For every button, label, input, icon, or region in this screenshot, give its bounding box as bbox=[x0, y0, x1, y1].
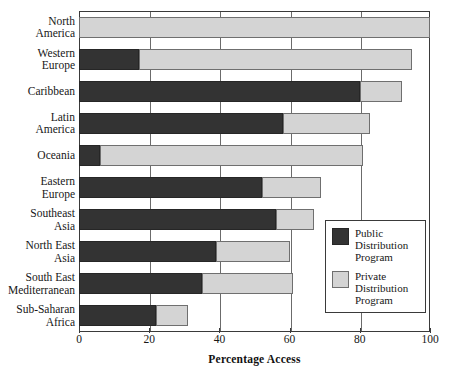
legend-label-line: Program bbox=[355, 294, 408, 306]
x-tick-label-0: 0 bbox=[76, 333, 82, 345]
bar-segment[interactable] bbox=[79, 145, 100, 166]
category-label-line: Europe bbox=[0, 188, 75, 201]
legend-entry[interactable]: PrivateDistributionProgram bbox=[332, 270, 420, 307]
bar-segment[interactable] bbox=[79, 81, 360, 102]
category-label: North EastAsia bbox=[0, 239, 75, 264]
category-label-line: America bbox=[0, 27, 75, 40]
bar-row[interactable] bbox=[79, 113, 430, 134]
x-axis-title: Percentage Access bbox=[79, 353, 430, 365]
category-axis-labels: NorthAmericaWesternEuropeCaribbeanLatinA… bbox=[0, 11, 75, 332]
legend-label-line: Private bbox=[355, 270, 408, 282]
bar-row[interactable] bbox=[79, 49, 430, 70]
bar-segment[interactable] bbox=[216, 241, 290, 262]
stacked-bar-chart: NorthAmericaWesternEuropeCaribbeanLatinA… bbox=[0, 0, 451, 376]
bar-segment[interactable] bbox=[276, 209, 315, 230]
x-tick-label-80: 80 bbox=[354, 333, 366, 345]
legend-entry[interactable]: PublicDistributionProgram bbox=[332, 227, 420, 264]
category-label: Sub-SaharanAfrica bbox=[0, 303, 75, 328]
category-label-line: Eastern bbox=[0, 175, 75, 188]
category-label: NorthAmerica bbox=[0, 15, 75, 40]
category-label: SoutheastAsia bbox=[0, 207, 75, 232]
category-label-line: Mediterranean bbox=[0, 284, 75, 297]
category-label: Oceania bbox=[0, 149, 75, 162]
x-tick-mark-100 bbox=[430, 328, 431, 333]
category-label: WesternEurope bbox=[0, 47, 75, 72]
bar-segment[interactable] bbox=[283, 113, 371, 134]
x-tick-label-100: 100 bbox=[421, 333, 438, 345]
bar-segment[interactable] bbox=[79, 241, 216, 262]
x-tick-mark-60 bbox=[290, 328, 291, 333]
category-label: EasternEurope bbox=[0, 175, 75, 200]
bar-row[interactable] bbox=[79, 17, 430, 38]
x-axis-ticks: 020406080100 bbox=[79, 333, 430, 351]
bar-segment[interactable] bbox=[100, 145, 363, 166]
category-label: Caribbean bbox=[0, 85, 75, 98]
category-label-line: Asia bbox=[0, 220, 75, 233]
bar-segment[interactable] bbox=[360, 81, 402, 102]
category-label-line: Western bbox=[0, 47, 75, 60]
bar-row[interactable] bbox=[79, 81, 430, 102]
category-label-line: Sub-Saharan bbox=[0, 303, 75, 316]
chart-legend: PublicDistributionProgramPrivateDistribu… bbox=[325, 220, 426, 313]
x-tick-label-60: 60 bbox=[284, 333, 296, 345]
bar-segment[interactable] bbox=[202, 273, 293, 294]
bar-segment[interactable] bbox=[79, 305, 156, 326]
category-label: South EastMediterranean bbox=[0, 271, 75, 296]
bar-segment[interactable] bbox=[79, 17, 430, 38]
bar-segment[interactable] bbox=[79, 49, 139, 70]
category-label: LatinAmerica bbox=[0, 111, 75, 136]
legend-label-line: Public bbox=[355, 227, 408, 239]
legend-label-line: Distribution bbox=[355, 239, 408, 251]
bar-segment[interactable] bbox=[79, 209, 276, 230]
bar-segment[interactable] bbox=[79, 177, 262, 198]
category-label-line: Latin bbox=[0, 111, 75, 124]
x-tick-label-20: 20 bbox=[143, 333, 155, 345]
legend-label: PrivateDistributionProgram bbox=[355, 270, 408, 307]
x-tick-mark-80 bbox=[360, 328, 361, 333]
x-tick-mark-40 bbox=[219, 328, 220, 333]
bar-segment[interactable] bbox=[139, 49, 413, 70]
bar-segment[interactable] bbox=[262, 177, 322, 198]
bar-row[interactable] bbox=[79, 145, 430, 166]
legend-label: PublicDistributionProgram bbox=[355, 227, 408, 264]
category-label-line: Asia bbox=[0, 252, 75, 265]
category-label-line: Southeast bbox=[0, 207, 75, 220]
category-label-line: North bbox=[0, 15, 75, 28]
legend-label-line: Distribution bbox=[355, 282, 408, 294]
category-label-line: South East bbox=[0, 271, 75, 284]
category-label-line: Africa bbox=[0, 316, 75, 329]
legend-swatch-private bbox=[332, 271, 349, 288]
x-tick-mark-20 bbox=[149, 328, 150, 333]
category-label-line: Oceania bbox=[0, 149, 75, 162]
bar-segment[interactable] bbox=[156, 305, 188, 326]
category-label-line: Caribbean bbox=[0, 85, 75, 98]
legend-label-line: Program bbox=[355, 251, 408, 263]
legend-swatch-public bbox=[332, 228, 349, 245]
category-label-line: Europe bbox=[0, 59, 75, 72]
bar-segment[interactable] bbox=[79, 273, 202, 294]
x-tick-label-40: 40 bbox=[214, 333, 226, 345]
bar-row[interactable] bbox=[79, 177, 430, 198]
category-label-line: North East bbox=[0, 239, 75, 252]
x-tick-mark-0 bbox=[79, 328, 80, 333]
category-label-line: America bbox=[0, 123, 75, 136]
bar-segment[interactable] bbox=[79, 113, 283, 134]
